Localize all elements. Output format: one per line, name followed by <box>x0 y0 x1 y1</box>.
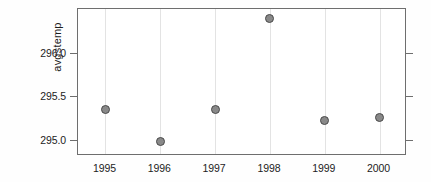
y-tick-label-296.0: 296.0 <box>14 47 66 60</box>
x-tick-label-1995: 1995 <box>79 162 129 174</box>
data-point-1996 <box>156 137 165 146</box>
gridline-1999 <box>325 9 326 154</box>
data-point-1995 <box>101 105 110 114</box>
gridline-1995 <box>105 9 106 154</box>
y-tick-mark-right-296.0 <box>406 53 413 54</box>
y-tick-mark-296.0 <box>70 53 77 54</box>
y-tick-mark-295.0 <box>70 140 77 141</box>
y-tick-label-295.0: 295.0 <box>14 134 66 147</box>
x-tick-label-1999: 1999 <box>299 162 349 174</box>
x-tick-label-1996: 1996 <box>134 162 184 174</box>
x-tick-label-1997: 1997 <box>189 162 239 174</box>
y-tick-mark-295.5 <box>70 96 77 97</box>
gridline-1998 <box>270 9 271 154</box>
y-tick-label-text: 296.0 <box>20 47 66 59</box>
data-point-1998 <box>265 14 274 23</box>
gridline-1997 <box>215 9 216 154</box>
y-tick-mark-right-295.0 <box>406 140 413 141</box>
data-point-2000 <box>375 113 384 122</box>
gridline-2000 <box>380 9 381 154</box>
y-tick-label-text: 295.0 <box>20 134 66 146</box>
x-tick-label-2000: 2000 <box>354 162 404 174</box>
plot-area <box>77 8 406 155</box>
y-tick-label-295.5: 295.5 <box>14 90 66 103</box>
y-tick-label-text: 295.5 <box>20 90 66 102</box>
chart-figure: avgstemp 296.0295.5295.0 199519961997199… <box>0 0 431 182</box>
x-tick-label-1998: 1998 <box>244 162 294 174</box>
data-point-1999 <box>320 116 329 125</box>
y-tick-mark-right-295.5 <box>406 96 413 97</box>
gridline-1996 <box>160 9 161 154</box>
data-point-1997 <box>211 105 220 114</box>
